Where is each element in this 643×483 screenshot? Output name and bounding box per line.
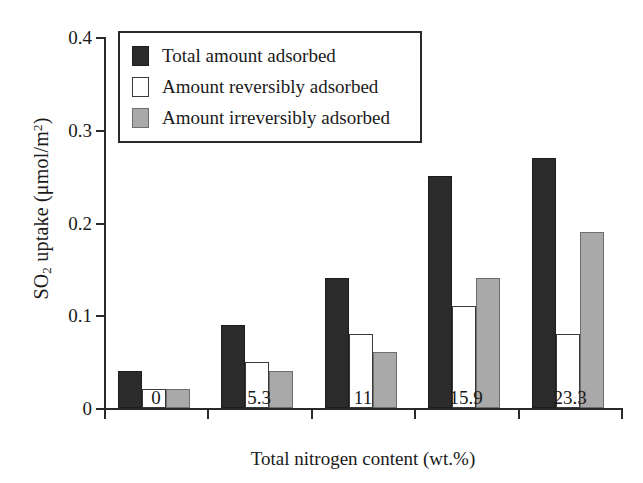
x-axis-line <box>104 408 623 410</box>
legend-swatch-irreversible-icon <box>132 108 149 128</box>
y-axis-title-prefix: SO <box>30 274 52 300</box>
x-tick-mark-1 <box>207 410 209 419</box>
x-tick-label-2: 11 <box>318 388 408 408</box>
x-axis-title: Total nitrogen content (wt.%) <box>104 448 622 470</box>
x-tick-mark-0 <box>104 410 106 419</box>
y-tick-label-0.3: 0.3 <box>38 121 92 140</box>
y-axis-title-sub: 2 <box>39 267 54 274</box>
x-tick-mark-3 <box>414 410 416 419</box>
bar-total-15.9 <box>428 176 452 408</box>
x-tick-label-3: 15.9 <box>421 388 511 408</box>
x-tick-mark-5 <box>621 410 623 419</box>
bar-irreversible-23.3 <box>580 232 604 408</box>
y-tick-label-0.1: 0.1 <box>38 306 92 325</box>
legend-swatch-reversible-icon <box>132 77 149 97</box>
chart-legend: Total amount adsorbed Amount reversibly … <box>118 31 422 143</box>
bar-total-23.3 <box>532 158 556 408</box>
y-tick-label-0.4: 0.4 <box>38 28 92 47</box>
y-tick-mark-0.3 <box>96 130 105 132</box>
y-tick-label-0.2: 0.2 <box>38 214 92 233</box>
y-tick-mark-0.4 <box>96 37 105 39</box>
legend-swatch-total-icon <box>132 46 149 66</box>
y-tick-label-0: 0 <box>38 399 92 418</box>
y-axis-title-middle: uptake (μmol/m <box>30 131 52 267</box>
x-tick-mark-2 <box>311 410 313 419</box>
chart-figure: SO2 uptake (μmol/m2) 0.4 0.3 0.2 0.1 0 0… <box>0 0 643 483</box>
y-tick-mark-0.1 <box>96 315 105 317</box>
legend-item-total: Total amount adsorbed <box>132 40 410 71</box>
y-tick-mark-0.2 <box>96 223 105 225</box>
x-tick-label-1: 5.3 <box>214 388 304 408</box>
x-tick-label-4: 23.3 <box>525 388 615 408</box>
legend-item-irreversible: Amount irreversibly adsorbed <box>132 102 410 133</box>
x-tick-label-0: 0 <box>111 388 201 408</box>
legend-item-reversible: Amount reversibly adsorbed <box>132 71 410 102</box>
legend-label-reversible: Amount reversibly adsorbed <box>162 77 378 97</box>
x-tick-mark-4 <box>518 410 520 419</box>
legend-label-total: Total amount adsorbed <box>162 46 336 66</box>
legend-label-irreversible: Amount irreversibly adsorbed <box>162 108 390 128</box>
